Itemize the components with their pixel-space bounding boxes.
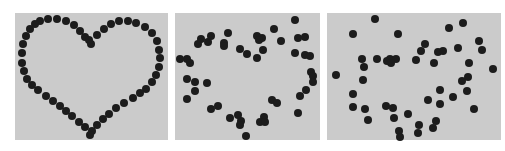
dot-marker bbox=[214, 102, 222, 110]
scattered-heart-panel bbox=[175, 13, 320, 140]
dot-marker bbox=[332, 71, 340, 79]
dot-marker bbox=[107, 20, 115, 28]
dot-marker bbox=[155, 46, 163, 54]
dot-marker bbox=[394, 30, 402, 38]
dot-marker bbox=[273, 99, 281, 107]
dot-marker bbox=[415, 121, 423, 129]
dot-marker bbox=[389, 104, 397, 112]
figure-caption bbox=[0, 141, 505, 151]
dot-marker bbox=[349, 30, 357, 38]
dot-marker bbox=[489, 65, 497, 73]
dot-marker bbox=[371, 15, 379, 23]
dot-marker bbox=[470, 105, 478, 113]
dot-marker bbox=[75, 118, 83, 126]
dot-marker bbox=[53, 15, 61, 23]
dot-marker bbox=[226, 114, 234, 122]
dot-marker bbox=[191, 78, 199, 86]
dot-marker bbox=[186, 59, 194, 67]
dot-marker bbox=[296, 92, 304, 100]
dot-marker bbox=[294, 109, 302, 117]
dot-marker bbox=[458, 77, 466, 85]
dot-marker bbox=[18, 49, 26, 57]
dot-marker bbox=[224, 29, 232, 37]
dot-marker bbox=[124, 17, 132, 25]
dot-marker bbox=[236, 121, 244, 129]
dot-marker bbox=[220, 42, 228, 50]
dot-marker bbox=[359, 76, 367, 84]
dot-marker bbox=[291, 49, 299, 57]
dot-marker bbox=[255, 36, 263, 44]
dot-marker bbox=[44, 15, 52, 23]
dot-marker bbox=[465, 59, 473, 67]
dot-marker bbox=[112, 104, 120, 112]
dot-marker bbox=[62, 17, 70, 25]
dot-marker bbox=[242, 132, 250, 140]
dot-marker bbox=[436, 86, 444, 94]
dot-marker bbox=[20, 67, 28, 75]
dot-marker bbox=[475, 37, 483, 45]
dot-marker bbox=[253, 54, 261, 62]
dot-marker bbox=[445, 24, 453, 32]
dot-marker bbox=[291, 16, 299, 24]
dot-marker bbox=[243, 50, 251, 58]
dot-marker bbox=[129, 94, 137, 102]
dot-marker bbox=[430, 59, 438, 67]
dot-marker bbox=[414, 129, 422, 137]
dot-marker bbox=[449, 93, 457, 101]
dot-marker bbox=[349, 90, 357, 98]
dot-marker bbox=[207, 105, 215, 113]
dot-marker bbox=[155, 63, 163, 71]
dot-marker bbox=[93, 31, 101, 39]
dot-marker bbox=[463, 87, 471, 95]
heart-shape-panel bbox=[15, 13, 168, 140]
dot-marker bbox=[270, 25, 278, 33]
dot-marker bbox=[115, 17, 123, 25]
dot-marker bbox=[132, 19, 140, 27]
dot-marker bbox=[387, 59, 395, 67]
dot-marker bbox=[87, 40, 95, 48]
dot-marker bbox=[439, 47, 447, 55]
dot-marker bbox=[361, 105, 369, 113]
dot-marker bbox=[31, 20, 39, 28]
dot-marker bbox=[360, 63, 368, 71]
dot-marker bbox=[309, 78, 317, 86]
dot-marker bbox=[49, 97, 57, 105]
dot-marker bbox=[136, 89, 144, 97]
dot-marker bbox=[148, 78, 156, 86]
dot-marker bbox=[412, 56, 420, 64]
dot-marker bbox=[404, 110, 412, 118]
dot-marker bbox=[183, 75, 191, 83]
dot-marker bbox=[86, 131, 94, 139]
dot-marker bbox=[153, 37, 161, 45]
dot-marker bbox=[22, 32, 30, 40]
dot-marker bbox=[23, 75, 31, 83]
dot-marker bbox=[390, 114, 398, 122]
dot-marker bbox=[364, 116, 372, 124]
dot-marker bbox=[19, 40, 27, 48]
dot-marker bbox=[349, 103, 357, 111]
dot-marker bbox=[306, 52, 314, 60]
dot-marker bbox=[417, 47, 425, 55]
dot-marker bbox=[259, 46, 267, 54]
dot-marker bbox=[459, 19, 467, 27]
dot-marker bbox=[156, 54, 164, 62]
dot-marker bbox=[373, 55, 381, 63]
dot-marker bbox=[429, 124, 437, 132]
dot-marker bbox=[18, 59, 26, 67]
dot-marker bbox=[261, 118, 269, 126]
dot-marker bbox=[301, 33, 309, 41]
dot-marker bbox=[424, 96, 432, 104]
dot-marker bbox=[207, 32, 215, 40]
dot-marker bbox=[358, 55, 366, 63]
dot-marker bbox=[436, 100, 444, 108]
dot-marker bbox=[148, 29, 156, 37]
dot-marker bbox=[191, 87, 199, 95]
dot-marker bbox=[56, 102, 64, 110]
dot-marker bbox=[42, 92, 50, 100]
dot-marker bbox=[120, 99, 128, 107]
dot-marker bbox=[454, 44, 462, 52]
dot-marker bbox=[183, 95, 191, 103]
dot-marker bbox=[277, 37, 285, 45]
dot-marker bbox=[478, 46, 486, 54]
dot-marker bbox=[396, 133, 404, 141]
